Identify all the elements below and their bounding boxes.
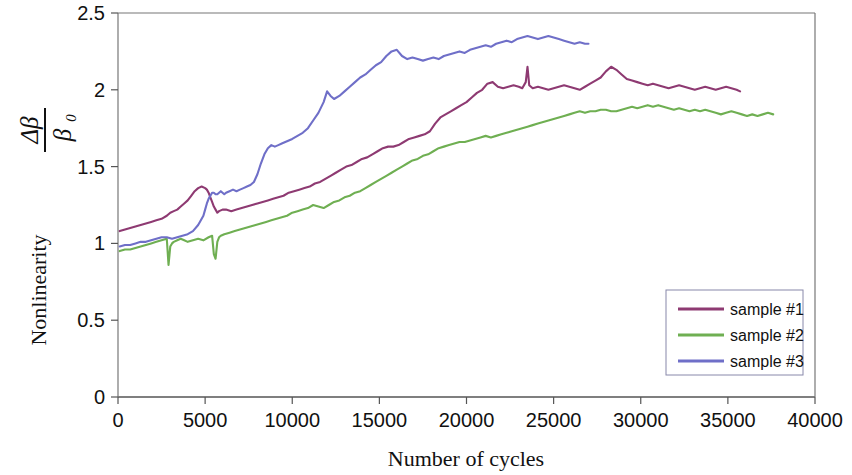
x-tick-label: 0: [112, 409, 123, 431]
nonlinearity-vs-cycles-chart: 0500010000150002000025000300003500040000…: [0, 0, 852, 475]
legend-label-3: sample #3: [730, 353, 804, 370]
fraction-numerator: Δβ: [16, 116, 43, 145]
x-tick-label: 40000: [787, 409, 843, 431]
y-axis-tick-labels: 00.511.522.5: [77, 2, 105, 408]
legend-label-1: sample #1: [730, 301, 804, 318]
y-axis-fraction-symbol: Δβ β 0: [16, 108, 79, 152]
y-tick-label: 0.5: [77, 309, 105, 331]
x-tick-label: 10000: [264, 409, 320, 431]
y-tick-label: 0: [94, 386, 105, 408]
y-tick-label: 1: [94, 232, 105, 254]
x-tick-label: 15000: [352, 409, 408, 431]
chart-legend: sample #1sample #2sample #3: [666, 290, 804, 375]
x-axis-ticks: [118, 397, 815, 404]
x-tick-label: 25000: [526, 409, 582, 431]
x-axis-tick-labels: 0500010000150002000025000300003500040000: [112, 409, 842, 431]
y-tick-label: 2: [94, 79, 105, 101]
legend-label-2: sample #2: [730, 327, 804, 344]
y-axis-title: Nonlinearity: [26, 234, 51, 345]
x-tick-label: 20000: [439, 409, 495, 431]
x-tick-label: 5000: [183, 409, 228, 431]
chart-figure: 0500010000150002000025000300003500040000…: [0, 0, 852, 475]
y-axis-ticks: [111, 13, 118, 397]
fraction-denominator-subscript: 0: [63, 114, 79, 122]
x-axis-title: Number of cycles: [388, 446, 544, 471]
fraction-denominator: β: [49, 128, 76, 142]
y-tick-label: 1.5: [77, 156, 105, 178]
x-tick-label: 35000: [700, 409, 756, 431]
y-tick-label: 2.5: [77, 2, 105, 24]
x-tick-label: 30000: [613, 409, 669, 431]
